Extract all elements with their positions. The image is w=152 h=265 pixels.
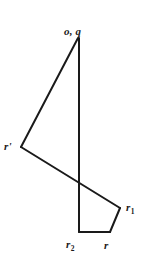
figure-line-drawing [0, 0, 152, 265]
vertex-label-r1-base: r [126, 201, 130, 213]
vertex-label-r2-subscript: 2 [71, 244, 75, 253]
vertex-label-r2-base: r [66, 238, 70, 250]
vertex-label-apex: o, q [64, 26, 81, 37]
vertex-label-r-prime: r' [4, 141, 12, 152]
vertex-label-r1-subscript: 1 [131, 207, 135, 216]
geometry-figure: o, q r' r1 r2 r [0, 0, 152, 265]
vertex-label-r1: r1 [126, 202, 134, 213]
vertex-label-r: r [104, 240, 108, 251]
vertex-label-r2: r2 [66, 239, 74, 250]
